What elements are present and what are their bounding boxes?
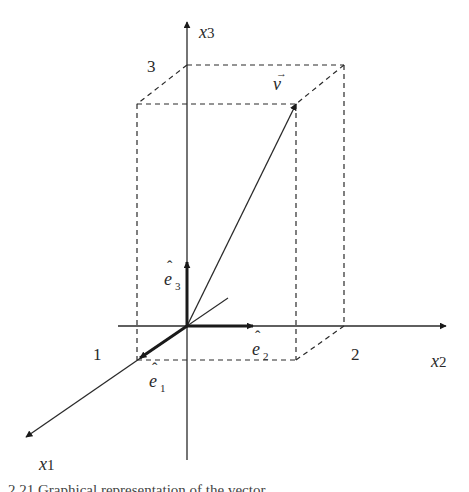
vector-v [187,104,296,326]
svg-text:e: e [252,339,260,359]
tick-label-x3: 3 [147,57,156,76]
vector-v-label: → v [273,67,287,94]
x3-axis-label: x3 [198,22,215,42]
tick-label-x2: 2 [351,345,360,364]
unit-vectors [140,262,253,358]
svg-text:1: 1 [160,382,166,394]
svg-text:e: e [164,269,172,289]
axes [26,22,446,460]
svg-text:3: 3 [175,280,181,292]
svg-text:2: 2 [263,350,269,362]
unit-vector-e1-label: ˆ e 1 [149,360,166,394]
x2-axis-label: x2 [430,351,447,371]
svg-text:v: v [273,74,281,94]
unit-vector-e1 [140,326,187,358]
svg-text:e: e [149,371,157,391]
unit-vector-e2-label: ˆ e 2 [252,328,269,362]
unit-vector-e3-label: ˆ e 3 [164,258,181,292]
figure-caption: 2.21 Graphical representation of the vec… [8,478,468,492]
x1-axis-label: x1 [38,454,55,474]
tick-label-x1: 1 [93,345,102,364]
dashed-box [137,65,344,360]
